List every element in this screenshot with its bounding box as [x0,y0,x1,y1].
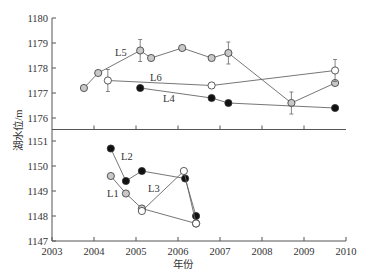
chart: 1176117711781179118011471148114911501151… [0,0,367,274]
data-point [95,69,102,76]
labels-layer: L5L6L4L2L1L3 [107,47,175,199]
x-tick-label: 2007 [210,246,231,257]
series-line [108,71,335,86]
y-tick-label: 1176 [27,113,48,124]
y-tick-label: 1179 [27,38,48,49]
data-point [137,47,144,54]
series-label-l2: L2 [121,151,133,162]
data-point [122,190,129,197]
y-tick-label: 1178 [27,63,48,74]
data-point [192,220,199,227]
data-point [208,82,215,89]
data-point [331,104,338,111]
data-point [331,67,338,74]
series-layer [80,40,338,228]
series-label-l6: L6 [150,72,162,83]
data-point [107,172,114,179]
data-point [225,99,232,106]
y-tick-label: 1148 [27,211,48,222]
series-label-l3: L3 [148,183,160,194]
series-label-l5: L5 [115,47,127,58]
y-axis-title: 湖水位/m [12,109,24,150]
x-tick-label: 2008 [252,246,273,257]
data-point [107,145,114,152]
data-point [80,84,87,91]
series-label-l4: L4 [163,93,175,104]
data-point [138,207,145,214]
x-tick-label: 2009 [294,246,315,257]
data-point [179,44,186,51]
data-point [180,167,187,174]
series-label-l1: L1 [107,188,119,199]
x-axis-title: 年份 [173,258,194,270]
data-point [122,177,129,184]
y-tick-label: 1149 [27,186,48,197]
axes: 1176117711781179118011471148114911501151… [12,13,357,270]
x-tick-label: 2010 [336,246,357,257]
data-point [148,54,155,61]
y-tick-label: 1150 [27,161,48,172]
data-point [208,94,215,101]
data-point [138,167,145,174]
data-point [208,54,215,61]
x-tick-label: 2006 [168,246,189,257]
x-tick-label: 2003 [42,246,63,257]
y-tick-label: 1151 [27,136,48,147]
y-tick-label: 1177 [27,88,48,99]
data-point [104,77,111,84]
x-tick-label: 2005 [126,246,147,257]
x-tick-label: 2004 [84,246,106,257]
data-point [137,84,144,91]
y-tick-label: 1180 [27,13,48,24]
data-point [225,49,232,56]
